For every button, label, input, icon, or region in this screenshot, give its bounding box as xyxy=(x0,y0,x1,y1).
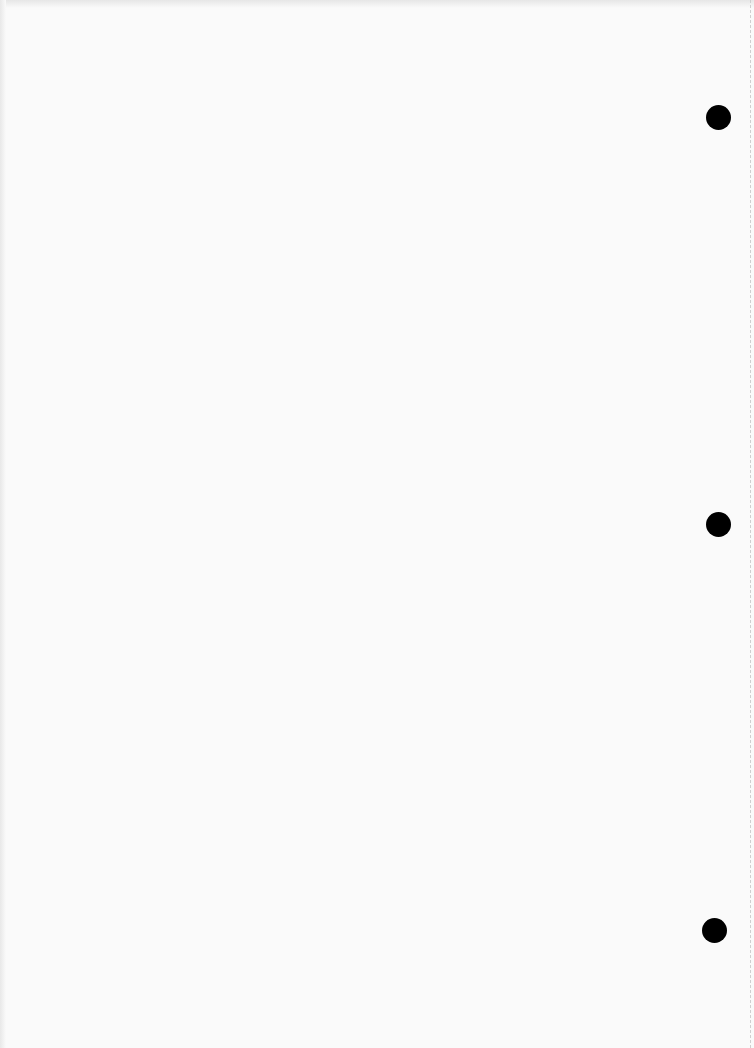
punch-hole-top xyxy=(706,105,731,130)
page-left-edge xyxy=(0,0,6,1048)
page-right-edge xyxy=(749,0,751,1048)
punch-hole-middle xyxy=(706,512,731,537)
page-top-edge xyxy=(0,0,754,8)
punch-hole-bottom xyxy=(702,918,727,943)
scanned-page xyxy=(0,0,754,1048)
